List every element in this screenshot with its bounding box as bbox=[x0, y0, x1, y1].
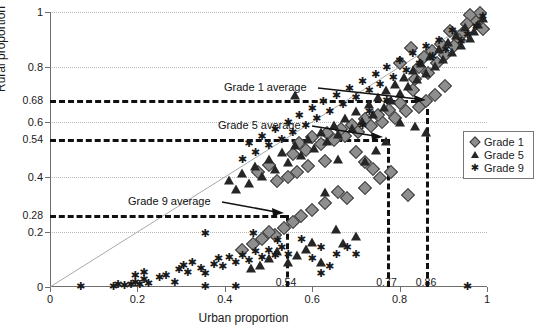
annotation-grade5-text: Grade 5 average bbox=[218, 119, 301, 131]
gridline-y-1 bbox=[50, 12, 487, 13]
data-point-grade-1 bbox=[235, 243, 249, 257]
data-point-grade-1 bbox=[340, 191, 354, 205]
y-tick-0.6 bbox=[45, 122, 50, 123]
data-point-grade-5 bbox=[456, 41, 466, 50]
data-point-grade-9: ✱ bbox=[441, 45, 450, 54]
data-point-grade-5 bbox=[316, 127, 326, 136]
data-point-grade-1 bbox=[408, 72, 422, 86]
data-point-grade-9: ✱ bbox=[139, 274, 148, 283]
x-axis-title: Urban proportion bbox=[0, 311, 487, 325]
y-tick-1 bbox=[45, 12, 50, 13]
data-point-grade-5 bbox=[447, 47, 457, 56]
data-point-grade-9: ✱ bbox=[251, 148, 260, 157]
data-point-grade-1 bbox=[417, 50, 431, 64]
data-point-grade-9: ✱ bbox=[131, 270, 140, 279]
legend-item-grade-1[interactable]: Grade 1 bbox=[468, 135, 529, 148]
data-point-grade-9: ✱ bbox=[277, 243, 286, 252]
data-point-grade-9: ✱ bbox=[218, 262, 227, 271]
data-point-grade-5 bbox=[244, 178, 254, 187]
x-tick-label-0.6: 0.6 bbox=[305, 294, 320, 305]
data-point-grade-9: ✱ bbox=[408, 49, 417, 58]
y-axis-title: Rural proportion bbox=[0, 6, 8, 92]
data-point-grade-9: ✱ bbox=[447, 25, 456, 34]
data-point-grade-9: ✱ bbox=[395, 56, 404, 65]
data-point-grade-9: ✱ bbox=[238, 251, 247, 260]
data-point-grade-5 bbox=[421, 68, 431, 77]
data-point-grade-1 bbox=[382, 103, 396, 117]
guide-v-grade5 bbox=[387, 139, 390, 288]
data-point-grade-5 bbox=[307, 237, 317, 246]
identity-reference-line bbox=[50, 12, 487, 287]
data-point-grade-5 bbox=[390, 79, 400, 88]
data-point-grade-1 bbox=[334, 122, 348, 136]
data-point-grade-9: ✱ bbox=[428, 52, 437, 61]
y-value-label-0.68: 0.68 bbox=[23, 95, 43, 106]
triangle-icon bbox=[468, 151, 482, 158]
data-point-grade-1 bbox=[373, 171, 387, 185]
annotation-grade1-average: Grade 1 average bbox=[224, 81, 307, 93]
data-point-grade-1 bbox=[425, 43, 439, 57]
data-point-grade-9: ✱ bbox=[375, 79, 384, 88]
data-point-grade-1 bbox=[403, 41, 417, 55]
data-point-grade-9: ✱ bbox=[345, 83, 354, 92]
data-point-grade-5 bbox=[379, 102, 389, 111]
data-point-grade-1 bbox=[456, 26, 470, 40]
data-point-grade-9: ✱ bbox=[308, 104, 317, 113]
annotation-grade1-text: Grade 1 average bbox=[224, 81, 307, 93]
legend-item-grade-5[interactable]: Grade 5 bbox=[468, 148, 529, 161]
annotation-grade9-average: Grade 9 average bbox=[128, 195, 211, 207]
data-point-grade-1 bbox=[358, 155, 372, 169]
data-point-grade-9: ✱ bbox=[325, 107, 334, 116]
y-tick-label-1: 1 bbox=[37, 7, 43, 18]
data-point-grade-5 bbox=[381, 86, 391, 95]
y-axis-line bbox=[50, 12, 51, 287]
data-point-grade-5 bbox=[368, 109, 378, 118]
data-point-grade-5 bbox=[231, 185, 241, 194]
data-point-grade-1 bbox=[299, 142, 313, 156]
data-point-grade-9: ✱ bbox=[196, 263, 205, 272]
data-point-grade-5 bbox=[283, 157, 293, 166]
data-point-grade-5 bbox=[296, 151, 306, 160]
figure-container: 1 0.8 0.6 0.4 0.2 0 0 0.2 0.4 0.6 0.8 1 … bbox=[0, 0, 540, 336]
data-point-grade-1 bbox=[318, 196, 332, 210]
data-point-grade-1 bbox=[427, 87, 441, 101]
data-point-grade-5 bbox=[478, 13, 488, 22]
y-tick-label-0.4: 0.4 bbox=[28, 172, 43, 183]
x-tick-1 bbox=[487, 287, 488, 292]
data-point-grade-9: ✱ bbox=[249, 229, 258, 238]
data-point-grade-5 bbox=[264, 155, 274, 164]
annotation-grade5-average: Grade 5 average bbox=[218, 119, 301, 131]
data-point-grade-5 bbox=[395, 89, 405, 98]
data-point-grade-5 bbox=[430, 61, 440, 70]
x-tick-label-0: 0 bbox=[47, 294, 53, 305]
y-tick-0.2 bbox=[45, 232, 50, 233]
data-point-grade-5 bbox=[399, 72, 409, 81]
data-point-grade-1 bbox=[462, 8, 476, 22]
x-tick-0 bbox=[50, 287, 51, 292]
data-point-grade-9: ✱ bbox=[161, 270, 170, 279]
data-point-grade-5 bbox=[347, 123, 357, 132]
data-point-grade-1 bbox=[305, 130, 319, 144]
legend-item-grade-9[interactable]: ✱ Grade 9 bbox=[468, 161, 529, 174]
y-tick-label-0: 0 bbox=[37, 282, 43, 293]
data-point-grade-5 bbox=[371, 145, 381, 154]
data-point-grade-1 bbox=[438, 48, 452, 62]
data-point-grade-5 bbox=[333, 155, 343, 164]
data-point-grade-5 bbox=[257, 171, 267, 180]
data-point-grade-9: ✱ bbox=[421, 42, 430, 51]
guide-h-grade1 bbox=[50, 100, 426, 103]
guide-v-grade1 bbox=[426, 100, 429, 287]
x-tick-label-1: 1 bbox=[484, 294, 490, 305]
data-point-grade-5 bbox=[255, 261, 265, 270]
legend[interactable]: Grade 1 Grade 5 ✱ Grade 9 bbox=[463, 131, 534, 179]
data-point-grade-9: ✱ bbox=[316, 269, 325, 278]
data-point-grade-9: ✱ bbox=[364, 86, 373, 95]
data-point-grade-1 bbox=[469, 15, 483, 29]
data-point-grade-5 bbox=[469, 27, 479, 36]
legend-label-grade-1: Grade 1 bbox=[482, 136, 524, 148]
data-point-grade-1 bbox=[344, 118, 358, 132]
data-point-grade-1 bbox=[460, 17, 474, 31]
y-tick-label-0.8: 0.8 bbox=[28, 62, 43, 73]
data-point-grade-9: ✱ bbox=[187, 258, 196, 267]
y-tick-0.8 bbox=[45, 67, 50, 68]
